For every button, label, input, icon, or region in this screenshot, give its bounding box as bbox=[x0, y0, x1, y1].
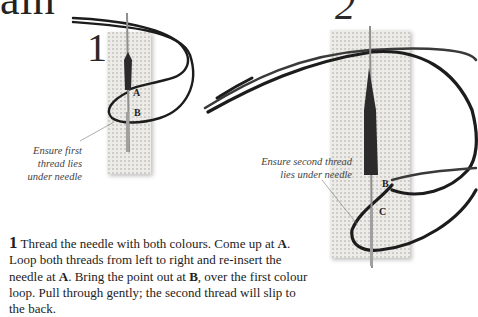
point-ref: B bbox=[189, 269, 198, 284]
caption-line: under needle bbox=[2, 170, 82, 183]
instruction-step-number: 1 bbox=[9, 233, 18, 252]
point-ref: A bbox=[278, 236, 287, 251]
instruction-text: Thread the needle with both colours. Com… bbox=[21, 236, 278, 251]
step-1-point-a: A bbox=[133, 87, 141, 98]
step-2-point-b: B bbox=[382, 178, 389, 189]
step-1-instruction: 1Thread the needle with both colours. Co… bbox=[9, 235, 309, 317]
instruction-text: . Bring the point out at bbox=[68, 269, 189, 284]
caption-line: Ensure second thread bbox=[250, 155, 352, 168]
caption-line: thread lies bbox=[2, 157, 82, 170]
step-1-caption: Ensure first thread lies under needle bbox=[2, 144, 82, 183]
caption-line: lies under needle bbox=[250, 168, 352, 181]
step-1-point-b: B bbox=[134, 107, 141, 118]
step-2-point-c: C bbox=[379, 206, 386, 217]
caption-line: Ensure first bbox=[2, 144, 82, 157]
point-ref: A bbox=[59, 269, 68, 284]
step-2-caption: Ensure second thread lies under needle bbox=[250, 155, 352, 181]
